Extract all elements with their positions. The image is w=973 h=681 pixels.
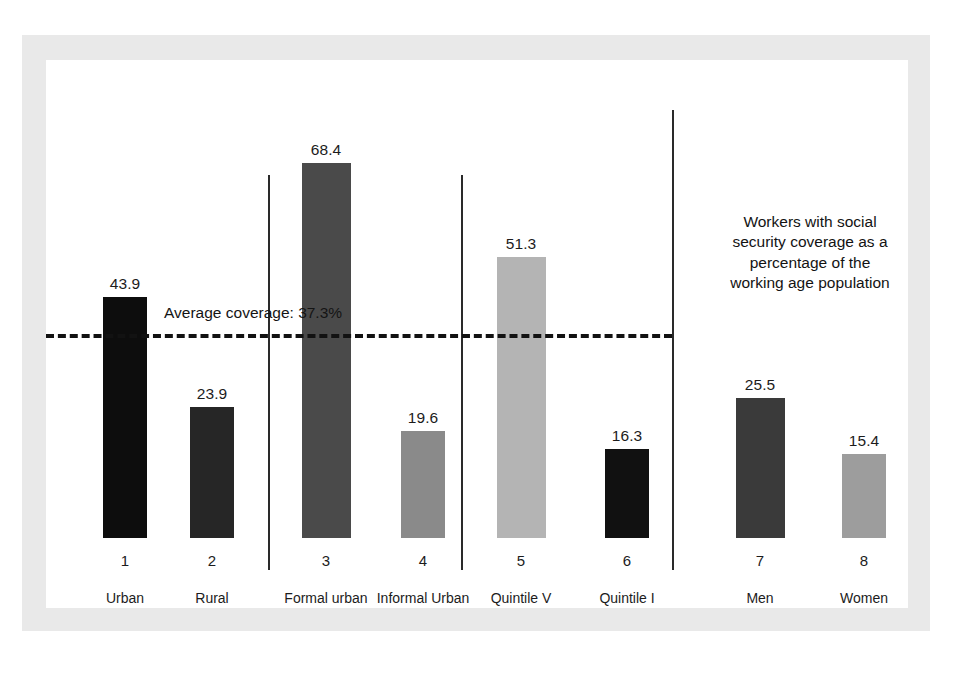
bar-rect	[736, 398, 785, 538]
bar-formal-urban: 68.4	[302, 163, 351, 538]
average-coverage-line	[46, 334, 672, 338]
axis-category-label: Formal urban	[284, 590, 367, 606]
plot-area: 43.91Urban23.92Rural68.43Formal urban19.…	[46, 60, 908, 608]
bar-rural: 23.9	[190, 407, 234, 538]
axis-tick-number: 2	[208, 552, 216, 569]
bar-rect	[190, 407, 234, 538]
group-separator-1	[268, 175, 270, 570]
axis-category-label: Women	[840, 590, 888, 606]
axis-category-label: Informal Urban	[377, 590, 470, 606]
bar-rect	[497, 257, 546, 538]
bar-value-label: 16.3	[612, 427, 643, 445]
axis-tick-number: 3	[322, 552, 330, 569]
average-coverage-label: Average coverage: 37.3%	[164, 304, 342, 322]
bar-rect	[842, 454, 886, 538]
chart-annotation: Workers with socialsecurity coverage as …	[694, 212, 926, 294]
bar-quintile-v: 51.3	[497, 257, 546, 538]
annotation-line: percentage of the	[694, 253, 926, 273]
group-separator-3	[672, 110, 674, 570]
bar-rect	[605, 449, 649, 538]
bar-value-label: 19.6	[408, 409, 439, 427]
annotation-line: Workers with social	[694, 212, 926, 232]
axis-category-label: Quintile I	[599, 590, 654, 606]
bar-quintile-i: 16.3	[605, 449, 649, 538]
bar-value-label: 23.9	[197, 385, 228, 403]
axis-tick-number: 8	[860, 552, 868, 569]
axis-category-label: Urban	[106, 590, 144, 606]
group-separator-2	[461, 175, 463, 570]
axis-tick-number: 1	[121, 552, 129, 569]
bar-rect	[401, 431, 445, 538]
bar-value-label: 43.9	[110, 275, 141, 293]
annotation-line: security coverage as a	[694, 232, 926, 252]
bar-value-label: 51.3	[506, 235, 537, 253]
axis-tick-number: 6	[623, 552, 631, 569]
bar-rect	[302, 163, 351, 538]
bar-value-label: 15.4	[849, 432, 880, 450]
axis-tick-number: 4	[419, 552, 427, 569]
bar-value-label: 68.4	[311, 141, 342, 159]
bar-women: 15.4	[842, 454, 886, 538]
axis-category-label: Quintile V	[491, 590, 552, 606]
bar-men: 25.5	[736, 398, 785, 538]
bar-value-label: 25.5	[745, 376, 776, 394]
axis-category-label: Rural	[195, 590, 228, 606]
bar-informal-urban: 19.6	[401, 431, 445, 538]
chart-figure: 43.91Urban23.92Rural68.43Formal urban19.…	[0, 0, 973, 681]
axis-tick-number: 7	[756, 552, 764, 569]
annotation-line: working age population	[694, 273, 926, 293]
axis-category-label: Men	[746, 590, 773, 606]
axis-tick-number: 5	[517, 552, 525, 569]
